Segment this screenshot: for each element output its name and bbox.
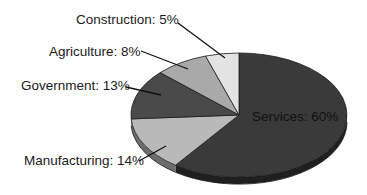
label-government: Government: 13% (21, 78, 130, 93)
label-construction: Construction: 5% (76, 12, 179, 27)
leader-agriculture (141, 51, 188, 69)
label-manufacturing: Manufacturing: 14% (24, 153, 144, 168)
label-services: Services: 60% (252, 109, 338, 124)
label-agriculture: Agriculture: 8% (49, 44, 141, 59)
pie-chart: Construction: 5% Agriculture: 8% Governm… (0, 0, 367, 195)
leader-construction (178, 23, 225, 58)
